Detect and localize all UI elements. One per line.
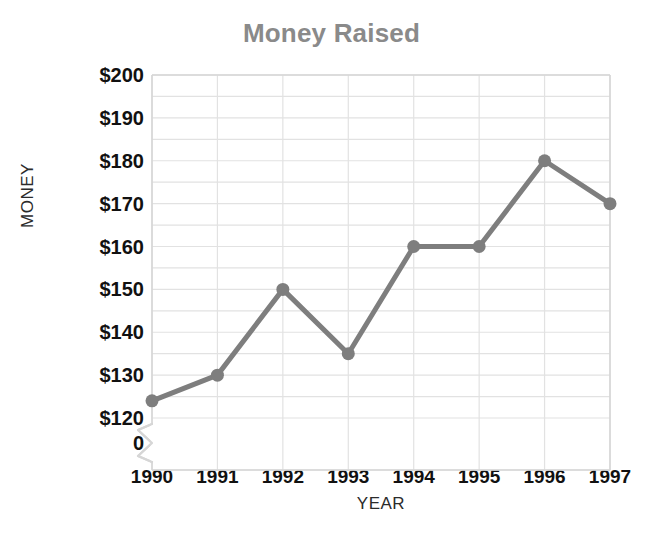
data-point-markers <box>146 154 617 407</box>
y-axis-break-symbol <box>138 424 153 462</box>
money-raised-line-chart: Money Raised MONEY $200$190$180$170$160$… <box>0 0 663 539</box>
plot-area <box>0 0 663 539</box>
vertical-gridlines <box>152 75 610 470</box>
data-series-line <box>152 161 610 401</box>
minor-gridlines <box>152 75 610 470</box>
plot-frame <box>152 75 610 470</box>
